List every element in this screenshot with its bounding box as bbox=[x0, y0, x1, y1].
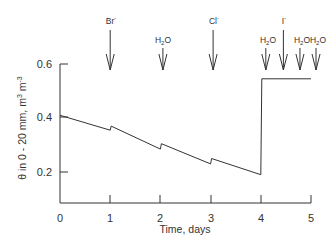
label-h2o: H2O bbox=[294, 35, 310, 46]
x-tick-label: 4 bbox=[258, 212, 264, 224]
axes bbox=[60, 64, 311, 203]
label-i: I- bbox=[282, 15, 286, 26]
label-h2o: H2O bbox=[155, 35, 171, 46]
y-tick-label: 0.6 bbox=[37, 58, 52, 70]
label-br: Br- bbox=[106, 15, 117, 26]
x-tick-label: 0 bbox=[57, 212, 63, 224]
y-axis-title-mid: m bbox=[16, 82, 28, 94]
y-tick-label: 0.2 bbox=[37, 166, 52, 178]
y-axis-title: θ in 0 - 20 mm, m3 m-3 bbox=[16, 76, 28, 180]
label-h2o: H2O bbox=[260, 35, 276, 46]
y-axis-title-sup: -3 bbox=[16, 76, 23, 82]
x-tick-label: 1 bbox=[107, 212, 113, 224]
label-h2o: H2O bbox=[310, 35, 326, 46]
annotation-arrows bbox=[106, 30, 320, 70]
y-axis-title-main: θ in 0 - 20 mm, m bbox=[16, 98, 28, 180]
x-tick-label: 5 bbox=[308, 212, 314, 224]
y-tick-label: 0.4 bbox=[37, 111, 52, 123]
x-axis-title: Time, days bbox=[160, 223, 211, 235]
label-cl: Cl- bbox=[209, 15, 219, 26]
data-line bbox=[60, 79, 311, 175]
chart: 0.6 0.4 0.2 0 1 2 3 4 5 Time, days θ in … bbox=[0, 0, 333, 236]
